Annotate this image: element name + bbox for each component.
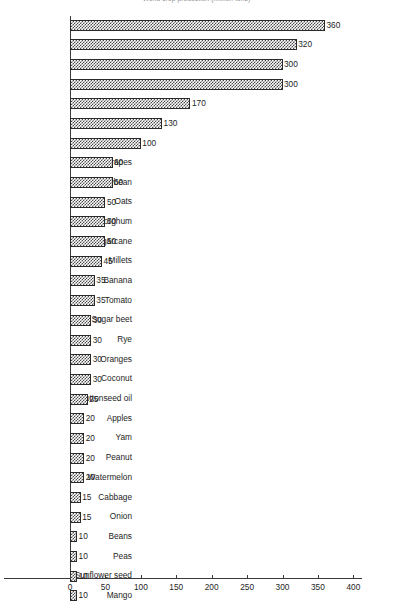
bar bbox=[70, 354, 91, 365]
bar-value-label: 30 bbox=[91, 335, 102, 346]
bar-wrapper: 300 bbox=[70, 79, 298, 90]
x-tick-mark bbox=[353, 575, 354, 579]
bar-category-label: Tomato bbox=[0, 295, 132, 306]
bar-wrapper: 100 bbox=[70, 138, 156, 149]
plot-area: Wheat360Rice320Maize300Potato300Barley17… bbox=[0, 0, 393, 605]
bar-category-label: Beans bbox=[0, 531, 132, 542]
x-tick-mark bbox=[247, 575, 248, 579]
bar-row: Cabbage15 bbox=[0, 489, 393, 509]
bar-wrapper: 170 bbox=[70, 98, 206, 109]
bar-row: Peas10 bbox=[0, 548, 393, 568]
bar bbox=[70, 374, 91, 385]
bar-value-label: 100 bbox=[141, 138, 156, 149]
bar-row: Sugarcane50 bbox=[0, 233, 393, 253]
bar-value-label: 30 bbox=[91, 354, 102, 365]
bar-category-label: Watermelon bbox=[0, 472, 132, 483]
bar-wrapper: 15 bbox=[70, 492, 91, 503]
bar-value-label: 60 bbox=[113, 177, 124, 188]
x-tick-label: 150 bbox=[160, 582, 192, 592]
bar-wrapper: 300 bbox=[70, 59, 298, 70]
bar-wrapper: 20 bbox=[70, 413, 95, 424]
bar bbox=[70, 177, 113, 188]
bar-value-label: 20 bbox=[84, 472, 95, 483]
bar bbox=[70, 433, 84, 444]
bar-wrapper: 60 bbox=[70, 157, 123, 168]
bar-wrapper: 10 bbox=[70, 531, 88, 542]
bar bbox=[70, 157, 113, 168]
bar-row: Potato300 bbox=[0, 75, 393, 95]
bar-row: Apples20 bbox=[0, 410, 393, 430]
bar bbox=[70, 512, 81, 523]
bar bbox=[70, 275, 95, 286]
bar-wrapper: 45 bbox=[70, 256, 113, 267]
bar bbox=[70, 256, 102, 267]
bar-value-label: 130 bbox=[162, 118, 177, 129]
bar-row: Rice320 bbox=[0, 36, 393, 56]
bar bbox=[70, 492, 81, 503]
x-tick-label: 400 bbox=[337, 582, 369, 592]
bar-value-label: 320 bbox=[297, 39, 312, 50]
bar-row: Cottonseed oil25 bbox=[0, 390, 393, 410]
bar-value-label: 15 bbox=[81, 512, 92, 523]
x-tick-mark bbox=[105, 575, 106, 579]
bar bbox=[70, 236, 105, 247]
bar bbox=[70, 98, 190, 109]
bar-wrapper: 30 bbox=[70, 374, 102, 385]
bar bbox=[70, 295, 95, 306]
bar-row: Cassava100 bbox=[0, 134, 393, 154]
bar-value-label: 25 bbox=[88, 394, 99, 405]
x-tick-mark bbox=[318, 575, 319, 579]
bar-wrapper: 15 bbox=[70, 512, 91, 523]
bar-row: Barley170 bbox=[0, 95, 393, 115]
bar bbox=[70, 394, 88, 405]
bar-value-label: 10 bbox=[77, 531, 88, 542]
x-tick-label: 250 bbox=[231, 582, 263, 592]
bar-wrapper: 20 bbox=[70, 433, 95, 444]
bar-row: Tomato35 bbox=[0, 292, 393, 312]
bar-value-label: 45 bbox=[102, 256, 113, 267]
bar-value-label: 50 bbox=[105, 197, 116, 208]
bar-wrapper: 10 bbox=[70, 551, 88, 562]
bar-wrapper: 35 bbox=[70, 275, 106, 286]
bar bbox=[70, 118, 162, 129]
bar-row: Sugar beet30 bbox=[0, 311, 393, 331]
x-tick-label: 200 bbox=[196, 582, 228, 592]
bar-category-label: Yam bbox=[0, 432, 132, 443]
bar bbox=[70, 531, 77, 542]
bar-value-label: 10 bbox=[77, 551, 88, 562]
bar bbox=[70, 216, 105, 227]
bar-wrapper: 60 bbox=[70, 177, 123, 188]
bar bbox=[70, 79, 283, 90]
bar-rows: Wheat360Rice320Maize300Potato300Barley17… bbox=[0, 16, 393, 605]
bar-wrapper: 50 bbox=[70, 197, 116, 208]
bar-value-label: 50 bbox=[105, 236, 116, 247]
bar-row: Watermelon20 bbox=[0, 469, 393, 489]
bar bbox=[70, 335, 91, 346]
bar bbox=[70, 138, 141, 149]
bar-value-label: 20 bbox=[84, 453, 95, 464]
bar bbox=[70, 413, 84, 424]
bar-wrapper: 25 bbox=[70, 394, 98, 405]
bar-category-label: Cottonseed oil bbox=[0, 393, 132, 404]
bar-row: Millets45 bbox=[0, 252, 393, 272]
bar-value-label: 20 bbox=[84, 413, 95, 424]
bar-wrapper: 20 bbox=[70, 472, 95, 483]
bar-row: Yam20 bbox=[0, 429, 393, 449]
bar-wrapper: 20 bbox=[70, 453, 95, 464]
bar-wrapper: 50 bbox=[70, 216, 116, 227]
bar-category-label: Sugar beet bbox=[0, 314, 132, 325]
bar-row: Wheat360 bbox=[0, 16, 393, 36]
bar-value-label: 360 bbox=[325, 20, 340, 31]
bar bbox=[70, 472, 84, 483]
bar-chart: World crop production (million tons) Whe… bbox=[0, 0, 393, 605]
bar-row: Sorghum50 bbox=[0, 213, 393, 233]
bar-value-label: 50 bbox=[105, 216, 116, 227]
bar-value-label: 35 bbox=[95, 275, 106, 286]
bar-category-label: Peanut bbox=[0, 452, 132, 463]
bar bbox=[70, 59, 283, 70]
x-tick-label: 350 bbox=[302, 582, 334, 592]
x-tick-mark bbox=[70, 575, 71, 579]
bar-value-label: 170 bbox=[190, 98, 205, 109]
x-tick-label: 100 bbox=[125, 582, 157, 592]
bar-category-label: Oranges bbox=[0, 354, 132, 365]
